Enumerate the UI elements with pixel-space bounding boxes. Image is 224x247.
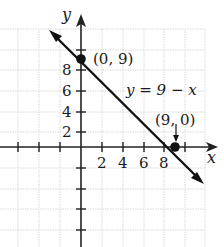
point-a-label: (0, 9) xyxy=(93,50,133,68)
x-axis xyxy=(0,142,218,152)
x-tick-label-4: 4 xyxy=(118,154,128,172)
x-tick-label-8: 8 xyxy=(159,154,169,172)
y-axis-label: y xyxy=(61,5,72,24)
y-tick-label-6: 6 xyxy=(62,82,72,100)
y-tick-label-4: 4 xyxy=(62,103,72,121)
x-tick-label-2: 2 xyxy=(97,154,107,172)
x-axis-label: x xyxy=(207,148,216,167)
y-axis xyxy=(76,14,86,247)
y-tick-label-8: 8 xyxy=(62,61,72,79)
point-9-0 xyxy=(170,142,180,152)
line-chart: y x (0, 9) (9, 0) y = 9 − x 8 6 4 2 2 4 … xyxy=(0,0,224,247)
point-b-label: (9, 0) xyxy=(155,111,195,129)
point-0-9 xyxy=(76,54,86,64)
y-tick-label-2: 2 xyxy=(62,123,72,141)
x-tick-label-6: 6 xyxy=(139,154,149,172)
equation-label: y = 9 − x xyxy=(125,81,197,99)
